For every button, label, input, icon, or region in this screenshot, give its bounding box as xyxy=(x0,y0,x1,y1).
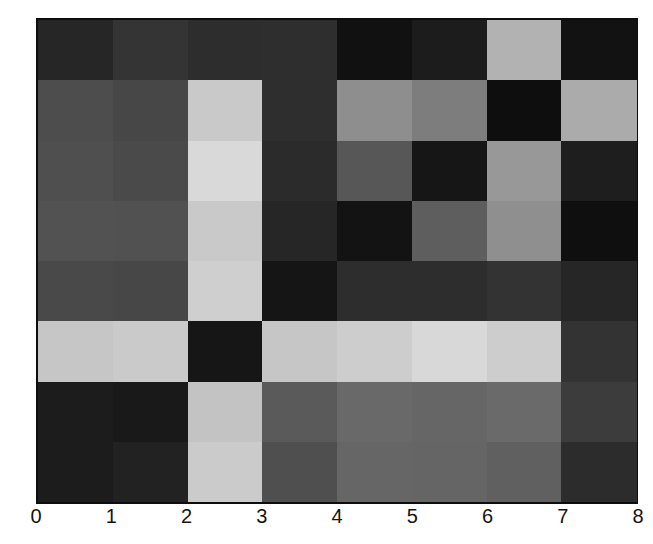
heatmap-figure: 012345678 012345678 xyxy=(0,0,653,544)
heatmap-cell xyxy=(337,20,412,81)
x-tick-label: 0 xyxy=(30,506,41,526)
heatmap-cell xyxy=(487,141,562,202)
heatmap-cell xyxy=(487,321,562,382)
heatmap-cell xyxy=(487,201,562,262)
heatmap-cell xyxy=(561,382,636,443)
x-tick-label: 6 xyxy=(482,506,493,526)
heatmap-cell xyxy=(113,201,188,262)
heatmap-cell xyxy=(38,141,113,202)
heatmap-cell xyxy=(188,321,263,382)
heatmap-cell xyxy=(337,321,412,382)
heatmap-cell xyxy=(412,442,487,503)
heatmap-cell xyxy=(412,201,487,262)
heatmap-cell xyxy=(38,442,113,503)
heatmap-cell xyxy=(262,141,337,202)
heatmap-cell xyxy=(561,20,636,81)
heatmap-cell xyxy=(487,261,562,322)
heatmap-cell xyxy=(188,20,263,81)
heatmap-cell xyxy=(113,382,188,443)
heatmap-cell xyxy=(38,20,113,81)
heatmap-cell xyxy=(262,261,337,322)
heatmap-cell xyxy=(412,80,487,141)
heatmap-cell xyxy=(561,261,636,322)
heatmap-cell xyxy=(38,321,113,382)
heatmap-cell xyxy=(561,80,636,141)
heatmap-cell xyxy=(38,201,113,262)
heatmap-cell xyxy=(38,382,113,443)
heatmap-cell xyxy=(188,261,263,322)
heatmap-plot xyxy=(36,18,638,504)
heatmap-cell xyxy=(337,201,412,262)
heatmap-cell xyxy=(262,20,337,81)
x-tick-label: 2 xyxy=(181,506,192,526)
x-tick-label: 5 xyxy=(407,506,418,526)
heatmap-cell xyxy=(113,141,188,202)
heatmap-cell xyxy=(188,442,263,503)
heatmap-cell xyxy=(337,261,412,322)
heatmap-cell xyxy=(487,80,562,141)
heatmap-cell xyxy=(561,321,636,382)
heatmap-cell xyxy=(412,20,487,81)
heatmap-cell xyxy=(262,201,337,262)
heatmap-cell xyxy=(188,201,263,262)
heatmap-cell xyxy=(188,141,263,202)
heatmap-cell xyxy=(412,382,487,443)
x-tick-label: 7 xyxy=(557,506,568,526)
heatmap-cell xyxy=(561,442,636,503)
heatmap-cell xyxy=(113,20,188,81)
heatmap-cell xyxy=(262,382,337,443)
heatmap-cell xyxy=(188,80,263,141)
heatmap-cell xyxy=(487,442,562,503)
heatmap-cell xyxy=(38,261,113,322)
heatmap-cell xyxy=(337,382,412,443)
heatmap-cell xyxy=(262,321,337,382)
heatmap-cell xyxy=(113,80,188,141)
heatmap-cell xyxy=(561,141,636,202)
heatmap-cell xyxy=(113,261,188,322)
heatmap-cell xyxy=(38,80,113,141)
heatmap-cell xyxy=(262,80,337,141)
heatmap-cell xyxy=(487,382,562,443)
x-tick-label: 1 xyxy=(106,506,117,526)
heatmap-cell xyxy=(337,442,412,503)
heatmap-cell xyxy=(561,201,636,262)
heatmap-cells xyxy=(38,20,636,502)
heatmap-cell xyxy=(113,442,188,503)
heatmap-cell xyxy=(337,80,412,141)
x-tick-label: 4 xyxy=(331,506,342,526)
heatmap-cell xyxy=(412,321,487,382)
heatmap-cell xyxy=(113,321,188,382)
heatmap-cell xyxy=(337,141,412,202)
x-tick-label: 8 xyxy=(632,506,643,526)
heatmap-cell xyxy=(487,20,562,81)
x-tick-label: 3 xyxy=(256,506,267,526)
heatmap-cell xyxy=(262,442,337,503)
heatmap-cell xyxy=(412,141,487,202)
heatmap-cell xyxy=(188,382,263,443)
heatmap-cell xyxy=(412,261,487,322)
